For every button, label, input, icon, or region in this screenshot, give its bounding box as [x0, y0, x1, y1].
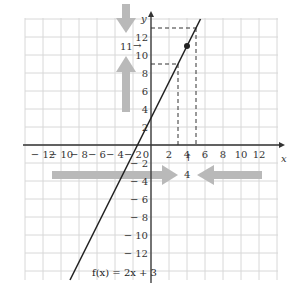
svg-text:− 4: − 4: [130, 176, 148, 187]
svg-text:12: 12: [253, 149, 266, 160]
svg-text:− 4: − 4: [106, 149, 124, 160]
svg-text:4: 4: [142, 104, 148, 115]
svg-text:− 8: − 8: [130, 212, 148, 223]
svg-text:8: 8: [220, 149, 226, 160]
svg-text:6: 6: [202, 149, 208, 160]
y-value-annotation: 11: [120, 41, 133, 52]
svg-text:6: 6: [142, 86, 148, 97]
svg-text:− 2: − 2: [130, 158, 148, 169]
y-axis-label: y: [140, 13, 147, 24]
svg-text:10: 10: [235, 149, 248, 160]
x-value-annotation: 4: [184, 169, 190, 180]
svg-text:− 10: − 10: [124, 230, 148, 241]
x-arrow-icon: ↑: [184, 152, 192, 163]
function-label: f(x) = 2x + 3: [92, 267, 157, 278]
svg-text:− 6: − 6: [88, 149, 106, 160]
axes: [23, 11, 285, 283]
y-arrow-icon: →: [133, 40, 142, 51]
x-axis-label: x: [281, 153, 287, 164]
svg-text:− 8: − 8: [70, 149, 88, 160]
svg-text:− 6: − 6: [130, 194, 148, 205]
function-graph: − 12− 10− 8− 6− 4− 202468101212108642− 2…: [0, 0, 294, 291]
svg-text:10: 10: [135, 50, 148, 61]
svg-text:2: 2: [166, 149, 172, 160]
svg-text:− 12: − 12: [124, 248, 148, 259]
svg-text:8: 8: [142, 68, 148, 79]
